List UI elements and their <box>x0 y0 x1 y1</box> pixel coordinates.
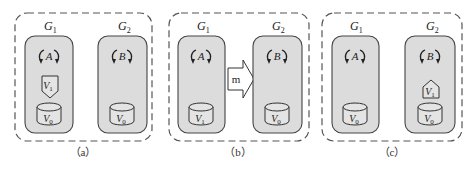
group-label-g2: G2 <box>426 19 439 35</box>
panel-a: G1 A V1 V0 G2 B V0 （a） <box>15 13 152 158</box>
panel-c-group-g1: G1 A V0 <box>332 19 379 133</box>
process-label-a: A <box>351 50 359 62</box>
group-label-g1: G1 <box>350 19 363 35</box>
process-label-a: A <box>197 50 205 62</box>
panel-b: G1 A V1 m G2 B V0 （b） <box>169 13 309 158</box>
group-label-g1: G1 <box>197 19 210 35</box>
panel-b-group-g2: G2 B V0 <box>253 19 302 133</box>
panel-caption-a: （a） <box>70 146 97 158</box>
panel-caption-b: （b） <box>224 146 252 158</box>
group-label-g2: G2 <box>118 19 131 35</box>
panel-b-group-g1: G1 A V1 <box>178 19 225 133</box>
panel-caption-c: （c） <box>379 146 406 158</box>
panel-a-group-g2: G2 B V0 <box>98 19 147 133</box>
group-label-g2: G2 <box>272 19 285 35</box>
migration-arrow: m <box>228 60 254 98</box>
process-label-b: B <box>427 50 434 62</box>
panel-a-group-g1: G1 A V1 V0 <box>25 19 73 133</box>
group-label-g1: G1 <box>44 19 57 35</box>
process-label-b: B <box>274 50 281 62</box>
panel-c-group-g2: G2 B V1 V0 <box>405 19 455 133</box>
process-label-b: B <box>119 50 126 62</box>
process-label-a: A <box>45 50 53 62</box>
diagram-canvas: G1 A V1 V0 G2 B V0 （a） G1 <box>0 0 473 171</box>
panel-c: G1 A V0 G2 B V1 V0 （c） <box>322 13 462 158</box>
arrow-label-m: m <box>232 73 241 85</box>
